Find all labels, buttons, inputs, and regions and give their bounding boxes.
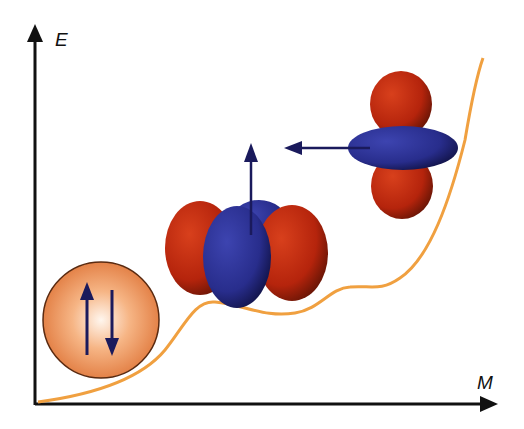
x-axis-label: M <box>477 372 493 393</box>
x-axis <box>35 396 498 412</box>
moment-up-arrow-icon <box>244 143 258 162</box>
spin-paired-sphere <box>43 262 159 378</box>
middle-orbital <box>165 143 328 308</box>
energy-diagram: E M <box>0 0 524 429</box>
right-orbital <box>284 71 458 219</box>
y-axis <box>27 24 43 405</box>
y-axis-arrow-icon <box>27 24 43 42</box>
moment-left-arrow-icon <box>284 141 302 155</box>
x-axis-arrow-icon <box>480 396 498 412</box>
y-axis-label: E <box>55 29 68 50</box>
